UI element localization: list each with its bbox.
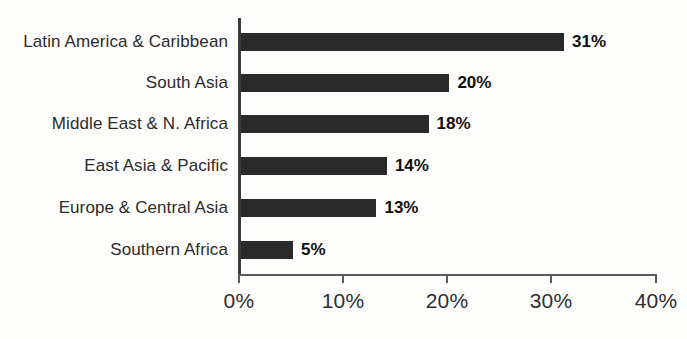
bar-value-label: 31% — [572, 32, 606, 52]
bar-value-label: 20% — [457, 73, 491, 93]
bar-segment — [241, 199, 376, 217]
bar-segment — [241, 157, 387, 175]
x-axis-tick-label-4: 40% — [635, 289, 678, 313]
bar-value-label: 5% — [301, 240, 326, 260]
x-axis-tick-label-0: 0% — [224, 289, 255, 313]
x-axis-tick-3 — [550, 274, 552, 283]
bar-value-label: 18% — [437, 114, 471, 134]
category-label: South Asia — [146, 73, 228, 93]
bar-row: Middle East & N. Africa 18% — [0, 103, 687, 144]
x-axis-tick-label-1: 10% — [322, 289, 365, 313]
x-axis-tick-label-2: 20% — [426, 289, 469, 313]
x-axis-tick-1 — [342, 274, 344, 283]
bar-row: East Asia & Pacific 14% — [0, 145, 687, 186]
bar-row: Latin America & Caribbean 31% — [0, 21, 687, 62]
bar-row: South Asia 20% — [0, 62, 687, 103]
category-label: Latin America & Caribbean — [23, 32, 228, 52]
category-label: Middle East & N. Africa — [52, 114, 228, 134]
bar-value-label: 13% — [384, 198, 418, 218]
bar-row: Europe & Central Asia 13% — [0, 187, 687, 228]
bar-segment — [241, 33, 564, 51]
plot-area: 0% 10% 20% 30% 40% Latin America & Carib… — [0, 0, 687, 339]
bar-segment — [241, 115, 429, 133]
bar-chart: 0% 10% 20% 30% 40% Latin America & Carib… — [0, 0, 687, 339]
x-axis-tick-label-3: 30% — [530, 289, 573, 313]
bar-value-label: 14% — [395, 156, 429, 176]
category-label: East Asia & Pacific — [84, 156, 228, 176]
category-label: Europe & Central Asia — [59, 198, 228, 218]
x-axis-tick-0 — [238, 274, 240, 283]
category-label: Southern Africa — [110, 240, 228, 260]
bar-segment — [241, 241, 293, 259]
x-axis-tick-4 — [655, 274, 657, 283]
x-axis-tick-2 — [446, 274, 448, 283]
bar-row: Southern Africa 5% — [0, 229, 687, 270]
bar-segment — [241, 74, 449, 92]
